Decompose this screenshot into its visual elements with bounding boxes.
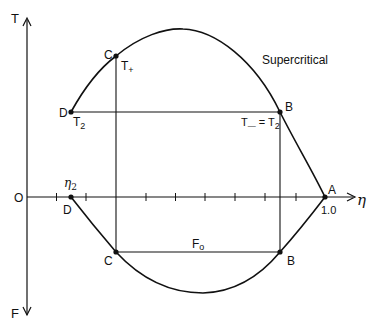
f-axis-label: F: [11, 306, 19, 321]
point-d-upper: [68, 109, 73, 114]
x-end-tick-label: 1.0: [321, 204, 336, 216]
eta2-label: η2: [64, 176, 77, 192]
label-c-upper: C: [104, 48, 113, 62]
phase-diagram: T F η O 1.0 Supercritical C D B T+ T2 T—…: [0, 0, 380, 328]
supercritical-label: Supercritical: [262, 53, 328, 67]
label-d-upper: D: [59, 106, 68, 120]
label-b-lower: B: [287, 254, 295, 268]
point-d-lower: [68, 194, 73, 199]
point-c-lower: [113, 249, 118, 254]
origin-label: O: [14, 191, 23, 205]
t-minus-equals-t2-label: T— = T2: [241, 116, 280, 131]
label-c-lower: C: [104, 254, 113, 268]
label-a: A: [328, 183, 336, 197]
t-plus-label: T+: [121, 59, 134, 75]
points: [68, 53, 327, 254]
label-d-lower: D: [63, 203, 72, 217]
vertical-axis: [23, 18, 31, 315]
point-b-lower: [277, 249, 282, 254]
eta-axis-label: η: [357, 191, 366, 209]
f0-label: Fo: [192, 237, 204, 252]
point-c-upper: [113, 53, 118, 58]
t-axis-label: T: [11, 11, 19, 26]
point-a: [322, 194, 327, 199]
point-b-upper: [277, 109, 282, 114]
t2-label: T2: [73, 115, 85, 131]
label-b-upper: B: [285, 100, 293, 114]
horizontal-axis: [27, 193, 355, 201]
